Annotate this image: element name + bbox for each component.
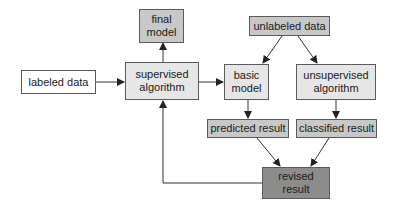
edge-classified-to-revised — [311, 138, 329, 166]
edges-layer — [0, 0, 398, 210]
edge-revised-to-supervised — [163, 101, 262, 183]
node-supervised-algorithm: supervised algorithm — [125, 62, 199, 100]
edge-unlabeled-to-unsupervised — [298, 36, 317, 63]
node-unsupervised-algorithm: unsupervised algorithm — [296, 64, 376, 100]
node-labeled-data: labeled data — [21, 70, 96, 94]
node-label: final model — [147, 13, 177, 39]
node-label: unsupervised algorithm — [303, 69, 368, 95]
node-predicted-result: predicted result — [207, 119, 289, 138]
node-basic-model: basic model — [224, 64, 269, 100]
node-label: predicted result — [210, 122, 285, 135]
edge-predicted-to-revised — [257, 138, 280, 166]
node-label: classified result — [299, 122, 374, 135]
node-label: basic model — [232, 69, 262, 95]
node-final-model: final model — [139, 9, 184, 43]
node-label: unlabeled data — [253, 20, 325, 33]
node-label: supervised algorithm — [135, 68, 188, 94]
node-classified-result: classified result — [296, 119, 377, 138]
node-label: labeled data — [29, 76, 89, 89]
node-label: revised result — [278, 170, 313, 196]
node-revised-result: revised result — [262, 167, 330, 199]
node-unlabeled-data: unlabeled data — [249, 16, 330, 36]
edge-unlabeled-to-basic — [263, 36, 282, 63]
